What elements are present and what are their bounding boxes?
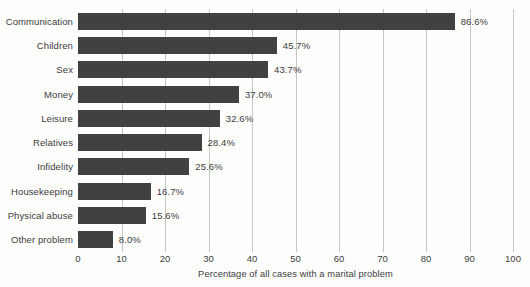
bar-track: 16.7% xyxy=(78,179,513,203)
bar-track: 43.7% xyxy=(78,58,513,82)
bar-rows-layer: Communication86.6%Children45.7%Sex43.7%M… xyxy=(0,9,513,252)
bar-track: 45.7% xyxy=(78,33,513,57)
bar-track: 86.6% xyxy=(78,9,513,33)
value-label: 37.0% xyxy=(245,89,272,100)
x-axis-label: Percentage of all cases with a marital p… xyxy=(78,269,513,279)
value-label: 28.4% xyxy=(208,137,235,148)
chart-row: Housekeeping16.7% xyxy=(0,179,513,203)
marital-problems-bar-chart: Communication86.6%Children45.7%Sex43.7%M… xyxy=(0,0,530,287)
category-label: Housekeeping xyxy=(0,186,78,197)
bar xyxy=(78,183,151,200)
x-tick-label: 70 xyxy=(377,253,388,264)
chart-row: Other problem8.0% xyxy=(0,228,513,252)
chart-row: Children45.7% xyxy=(0,33,513,57)
bar-track: 25.6% xyxy=(78,155,513,179)
bar-track: 8.0% xyxy=(78,228,513,252)
x-tick-label: 10 xyxy=(116,253,127,264)
chart-row: Physical abuse15.6% xyxy=(0,203,513,227)
category-label: Sex xyxy=(0,64,78,75)
bar xyxy=(78,61,268,78)
category-label: Communication xyxy=(0,16,78,27)
category-label: Children xyxy=(0,40,78,51)
x-tick-label: 40 xyxy=(247,253,258,264)
x-tick-label: 30 xyxy=(203,253,214,264)
category-label: Other problem xyxy=(0,234,78,245)
x-tick-label: 60 xyxy=(334,253,345,264)
bar-track: 37.0% xyxy=(78,82,513,106)
category-label: Infidelity xyxy=(0,161,78,172)
chart-row: Communication86.6% xyxy=(0,9,513,33)
category-label: Leisure xyxy=(0,113,78,124)
x-tick-label: 0 xyxy=(75,253,80,264)
value-label: 43.7% xyxy=(274,64,301,75)
x-tick-label: 100 xyxy=(505,253,521,264)
value-label: 15.6% xyxy=(152,210,179,221)
bar xyxy=(78,37,277,54)
bar xyxy=(78,86,239,103)
chart-row: Leisure32.6% xyxy=(0,106,513,130)
bar xyxy=(78,207,146,224)
bar xyxy=(78,110,220,127)
value-label: 32.6% xyxy=(226,113,253,124)
bar xyxy=(78,231,113,248)
gridline xyxy=(513,9,514,252)
bar-track: 32.6% xyxy=(78,106,513,130)
chart-row: Sex43.7% xyxy=(0,58,513,82)
chart-row: Relatives28.4% xyxy=(0,130,513,154)
category-label: Physical abuse xyxy=(0,210,78,221)
bar xyxy=(78,134,202,151)
value-label: 45.7% xyxy=(283,40,310,51)
value-label: 8.0% xyxy=(119,234,141,245)
chart-row: Money37.0% xyxy=(0,82,513,106)
bar-track: 28.4% xyxy=(78,130,513,154)
category-label: Money xyxy=(0,89,78,100)
category-label: Relatives xyxy=(0,137,78,148)
bar-track: 15.6% xyxy=(78,203,513,227)
value-label: 86.6% xyxy=(461,16,488,27)
x-tick-label: 90 xyxy=(464,253,475,264)
value-label: 16.7% xyxy=(157,186,184,197)
bar xyxy=(78,158,189,175)
value-label: 25.6% xyxy=(195,161,222,172)
x-tick-label: 80 xyxy=(421,253,432,264)
bar xyxy=(78,13,455,30)
chart-row: Infidelity25.6% xyxy=(0,155,513,179)
x-tick-label: 50 xyxy=(290,253,301,264)
x-tick-label: 20 xyxy=(160,253,171,264)
x-axis-ticks: 0102030405060708090100 xyxy=(78,253,513,266)
